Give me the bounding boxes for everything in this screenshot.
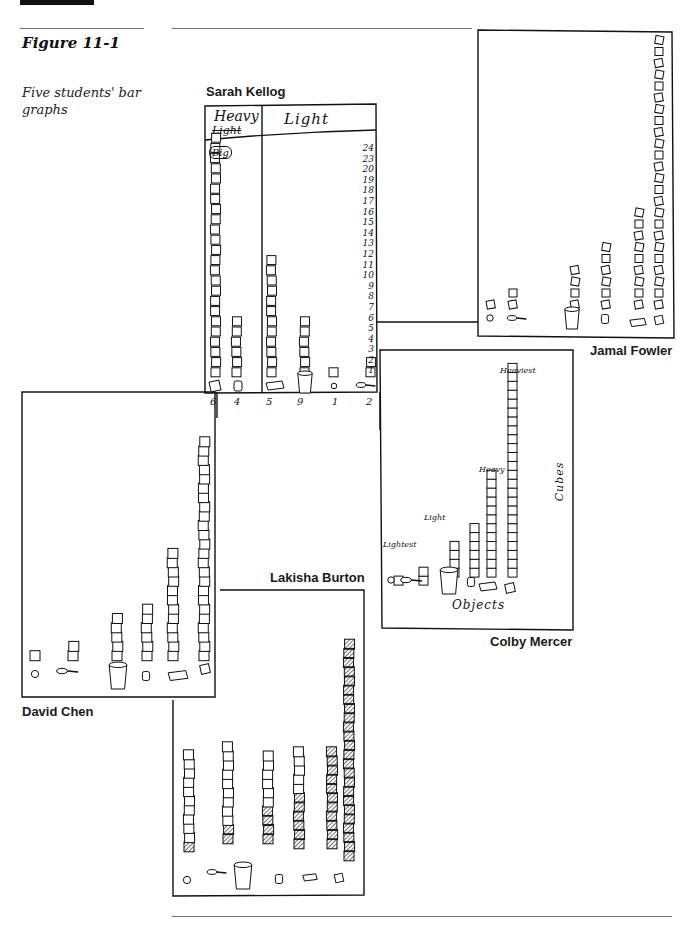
colby-bar-5-cube [508, 444, 517, 453]
lakisha-bar-1-cube [223, 797, 233, 807]
jamal-cup-icon [565, 309, 579, 329]
lakisha-bar-3-cube [293, 747, 303, 757]
sarah-scale-number: 17 [360, 196, 374, 207]
colby-y-axis-label: Cubes [553, 462, 566, 502]
lakisha-bar-3-cube [294, 774, 304, 784]
sarah-bar-2-cube [267, 307, 276, 316]
lakisha-spoon-handle [217, 872, 227, 873]
lakisha-bar-5-cube [344, 750, 354, 760]
colby-cup-icon [440, 570, 458, 594]
sarah-bar-0-cube [211, 164, 220, 173]
lakisha-bar-1-cube [222, 806, 232, 816]
colby-bar-3-cube [470, 533, 479, 542]
jamal-spoon-icon [507, 316, 517, 321]
lakisha-bar-3-cube [294, 839, 304, 849]
sarah-bar-0-cube [211, 215, 220, 224]
david-bar-5-cube [200, 539, 210, 549]
sarah-header-heavy: Heavy [214, 108, 259, 124]
colby-bar-5-cube [508, 524, 517, 533]
sarah-bar-1-cube [232, 327, 241, 336]
lakisha-bar-5-cube [345, 639, 355, 649]
colby-bar-5-cube [508, 390, 517, 399]
colby-bar-3-cube [470, 550, 479, 559]
jamal-bar-3-cube [602, 277, 611, 286]
sarah-frame [205, 104, 377, 393]
colby-bar-5-cube [508, 426, 517, 435]
jamal-bar-4-cube [634, 231, 643, 240]
lakisha-bar-3-cube [294, 793, 304, 803]
student-name-colby: Colby Mercer [490, 634, 572, 649]
lakisha-bar-5-cube [344, 805, 354, 815]
lakisha-spoon-icon [207, 870, 217, 875]
jamal-bar-5-cube [655, 289, 663, 297]
david-bar-2-cube [112, 614, 122, 624]
david-bar-5-cube [199, 493, 209, 503]
lakisha-ball-icon [183, 876, 190, 883]
lakisha-bar-3-cube [294, 802, 304, 812]
colby-chalk-box-icon [479, 582, 497, 591]
student-name-david: David Chen [22, 704, 94, 719]
colby-spoon-handle [411, 580, 422, 581]
jamal-bar-5-cube [655, 173, 664, 182]
sarah-bar-0-cube [211, 194, 220, 203]
lakisha-bar-2-cube [264, 825, 274, 835]
sarah-scale-number: 5 [360, 323, 374, 334]
sarah-bar-0-cube [212, 286, 221, 295]
jamal-bar-5-cube [655, 186, 663, 194]
lakisha-bar-4-cube [327, 802, 337, 812]
colby-bar-5-cube [508, 533, 517, 542]
lakisha-bar-2-cube [263, 797, 273, 807]
sarah-bar-0-cube [212, 358, 221, 367]
david-bar-5-cube [199, 446, 209, 456]
david-bar-4-cube [168, 548, 178, 558]
sarah-object-count: 9 [297, 396, 303, 407]
sarah-bar-0-cube [212, 245, 221, 254]
lakisha-bar-4-cube [327, 784, 337, 794]
jamal-bar-5-cube [655, 70, 664, 79]
lakisha-bar-2-cube [263, 788, 273, 798]
lakisha-bar-5-cube [344, 648, 354, 658]
jamal-bar-3-cube [601, 265, 610, 274]
david-bar-2-cube [111, 623, 121, 633]
colby-bar-5-cube [508, 417, 517, 426]
jamal-bar-5-cube [654, 127, 663, 136]
jamal-bar-5-cube [655, 220, 663, 228]
lakisha-bar-1-cube [223, 779, 233, 789]
david-block-icon [200, 664, 211, 675]
sarah-cup-rim [298, 371, 312, 376]
david-bar-5-cube [199, 651, 209, 661]
sarah-bar-3-cube [300, 327, 309, 336]
colby-bar-3-cube [470, 541, 479, 550]
colby-bar-5-cube [508, 515, 517, 524]
sarah-big-label: Big [209, 146, 232, 159]
lakisha-bar-5-cube [343, 759, 353, 769]
student-name-lakisha: Lakisha Burton [270, 570, 365, 585]
sarah-scale-number: 23 [360, 154, 374, 165]
sarah-ball-icon [331, 383, 337, 389]
sarah-scale-number: 18 [360, 185, 374, 196]
jamal-bar-2-cube [571, 277, 580, 286]
sarah-header-light: Light [284, 110, 329, 128]
lakisha-bar-1-cube [224, 760, 234, 770]
sarah-scale-number: 12 [360, 249, 374, 260]
lakisha-cup-rim [234, 862, 252, 868]
jamal-bar-4-cube [635, 255, 643, 263]
lakisha-bar-5-cube [343, 823, 353, 833]
sarah-bar-3-cube [300, 347, 309, 356]
jamal-bar-5-cube [655, 82, 663, 90]
jamal-bar-2-cube [570, 265, 579, 274]
david-bar-4-cube [167, 558, 177, 568]
colby-bar-5-cube [508, 452, 517, 461]
sarah-scale-number: 24 [360, 143, 374, 154]
lakisha-bar-5-cube [345, 704, 355, 714]
sarah-bar-4-cube [329, 368, 338, 377]
colby-label-heavy: Heavy [479, 465, 505, 474]
david-bar-4-cube [168, 651, 178, 661]
colby-bar-4-cube [487, 515, 496, 524]
colby-bar-4-cube [487, 559, 496, 568]
jamal-bar-5-cube [655, 139, 664, 148]
sarah-bar-1-cube [232, 317, 241, 326]
david-bar-0-cube [30, 651, 40, 661]
david-bar-5-cube [199, 530, 209, 540]
colby-bar-3-cube [470, 568, 479, 577]
